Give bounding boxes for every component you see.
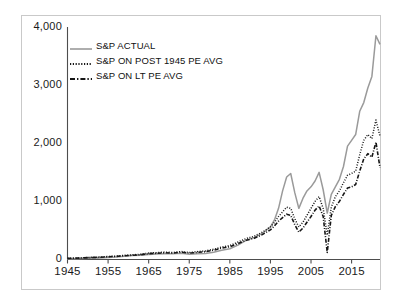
legend-item-label: S&P ON POST 1945 PE AVG — [96, 55, 223, 66]
y-axis-tick-label: 0 — [18, 252, 62, 264]
y-axis-tick-label: 2,000 — [18, 136, 62, 148]
legend-swatch-solid-icon — [70, 40, 92, 50]
x-axis-tick-label: 1945 — [48, 265, 88, 277]
x-axis-tick-label: 1985 — [210, 265, 250, 277]
y-axis-tick-label: 1,000 — [18, 194, 62, 206]
y-axis-tick-label: 3,000 — [18, 78, 62, 90]
y-axis-tick-label: 4,000 — [18, 20, 62, 32]
legend-item: S&P ON POST 1945 PE AVG — [70, 53, 250, 67]
x-axis-tick-label: 1975 — [169, 265, 209, 277]
legend-item-label: S&P ACTUAL — [96, 40, 155, 51]
series-line-1 — [68, 120, 381, 258]
x-axis-tick-label: 1995 — [250, 265, 290, 277]
x-axis-tick-label: 1955 — [88, 265, 128, 277]
x-axis-tick-label: 2015 — [332, 265, 372, 277]
chart-figure: 01,0002,0003,0004,000 194519551965197519… — [0, 0, 402, 305]
legend-swatch-dotted-icon — [70, 55, 92, 65]
chart-legend: S&P ACTUALS&P ON POST 1945 PE AVGS&P ON … — [70, 38, 250, 83]
legend-swatch-dashdot-icon — [70, 70, 92, 80]
x-axis-tick-label: 1965 — [129, 265, 169, 277]
series-line-2 — [68, 142, 381, 258]
x-axis-tick-label: 2005 — [291, 265, 331, 277]
legend-item: S&P ON LT PE AVG — [70, 68, 250, 82]
legend-item-label: S&P ON LT PE AVG — [96, 70, 183, 81]
legend-item: S&P ACTUAL — [70, 38, 250, 52]
